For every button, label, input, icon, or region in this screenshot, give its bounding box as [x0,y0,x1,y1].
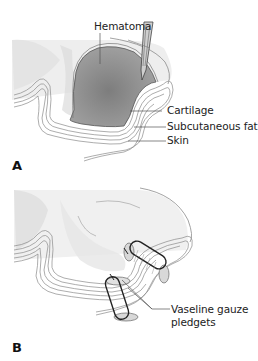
label-subcutaneous-fat: Subcutaneous fat [167,120,258,132]
gauze-pledget-lower-icon [104,275,138,321]
ear-cross-section-pledgets-illustration [0,180,258,361]
label-pledgets: pledgets [171,316,216,328]
panel-label-b: B [12,340,22,355]
label-skin: Skin [167,134,189,146]
label-hematoma: Hematoma [94,20,151,32]
panel-a: Hematoma Cartilage Subcutaneous fat Skin… [0,0,258,180]
panel-b: Vaseline gauze pledgets B [0,180,258,361]
label-vaseline-gauze: Vaseline gauze [171,303,248,315]
label-cartilage: Cartilage [167,104,214,116]
panel-label-a: A [12,158,22,173]
